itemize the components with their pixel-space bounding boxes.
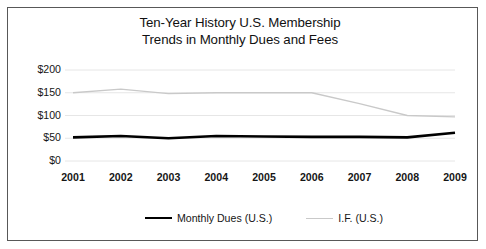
x-tick-label-2002: 2002: [100, 172, 142, 183]
x-tick-label-2004: 2004: [195, 172, 237, 183]
x-tick-label-2003: 2003: [148, 172, 190, 183]
y-tick-label-100: $100: [13, 110, 61, 121]
y-tick-label-50: $50: [13, 132, 61, 143]
legend-entry-if: I.F. (U.S.): [306, 212, 383, 224]
series-line-monthly-dues-u-s: [73, 133, 455, 138]
legend-entry-monthly-dues: Monthly Dues (U.S.): [145, 212, 272, 224]
legend-label: I.F. (U.S.): [338, 212, 383, 224]
chart-figure: Ten-Year History U.S. Membership Trends …: [0, 0, 486, 249]
y-tick-label-150: $150: [13, 87, 61, 98]
y-tick-label-0: $0: [13, 155, 61, 166]
chart-legend: Monthly Dues (U.S.)I.F. (U.S.): [73, 208, 455, 228]
x-tick-label-2008: 2008: [386, 172, 428, 183]
y-tick-label-200: $200: [13, 64, 61, 75]
legend-label: Monthly Dues (U.S.): [177, 212, 272, 224]
legend-line-icon: [306, 218, 333, 219]
series-line-i-f-u-s: [73, 89, 455, 117]
x-tick-label-2009: 2009: [434, 172, 476, 183]
x-tick-label-2007: 2007: [339, 172, 381, 183]
legend-line-icon: [145, 217, 172, 219]
x-tick-label-2001: 2001: [52, 172, 94, 183]
series-lines: [73, 89, 455, 138]
gridlines: [65, 70, 455, 161]
x-tick-label-2006: 2006: [291, 172, 333, 183]
x-tick-label-2005: 2005: [243, 172, 285, 183]
